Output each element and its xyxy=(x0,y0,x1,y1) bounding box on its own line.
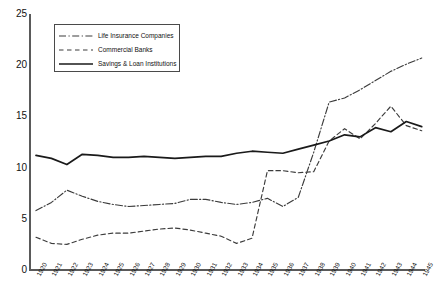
legend-item-savings-and-loan-institutions: Savings & Loan Institutions xyxy=(59,57,175,70)
chart-legend: Life Insurance Companies Commercial Bank… xyxy=(54,24,180,72)
series-line-2 xyxy=(36,122,422,165)
legend-label-savings-and-loan-institutions: Savings & Loan Institutions xyxy=(98,60,176,68)
legend-swatch-solid-icon xyxy=(59,59,93,69)
legend-label-commercial-banks: Commercial Banks xyxy=(98,46,153,54)
legend-item-life-insurance-companies: Life Insurance Companies xyxy=(59,29,175,42)
legend-item-commercial-banks: Commercial Banks xyxy=(59,43,175,56)
legend-label-life-insurance-companies: Life Insurance Companies xyxy=(98,32,174,40)
series-line-1 xyxy=(36,106,422,244)
legend-swatch-dash-dot-icon xyxy=(59,31,93,41)
legend-swatch-dashed-icon xyxy=(59,45,93,55)
